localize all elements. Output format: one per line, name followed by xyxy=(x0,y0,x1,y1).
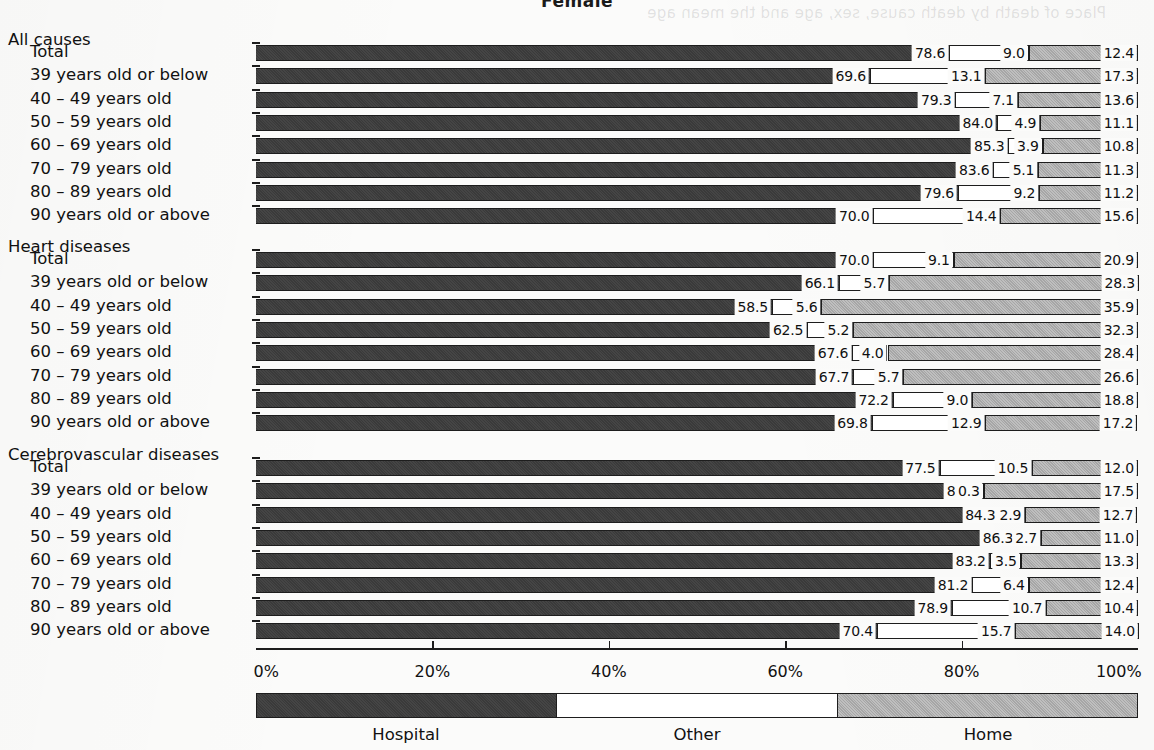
bar-segment-home[interactable] xyxy=(821,299,1138,315)
bar-segment-hospital[interactable] xyxy=(256,460,940,476)
bar-value-home: 13.3 xyxy=(1101,553,1137,569)
bar-value-other: 4.9 xyxy=(1011,115,1039,131)
table-row[interactable]: 84.32.912.7 xyxy=(256,507,1138,523)
table-row[interactable]: 78.910.710.4 xyxy=(256,600,1138,616)
table-row[interactable]: 83.23.513.3 xyxy=(256,553,1138,569)
table-row[interactable]: 69.812.917.2 xyxy=(256,415,1138,431)
category-label: 70 – 79 years old xyxy=(30,576,172,593)
bar-segment-hospital[interactable] xyxy=(256,392,893,408)
legend-swatch-other xyxy=(556,694,838,717)
bar-segment-hospital[interactable] xyxy=(256,577,972,593)
bar-segment-hospital[interactable] xyxy=(256,345,852,361)
table-row[interactable]: 70.415.714.0 xyxy=(256,623,1138,639)
bar-value-other: 12.9 xyxy=(948,415,984,431)
bar-value-home: 13.6 xyxy=(1101,92,1137,108)
bar-segment-hospital[interactable] xyxy=(256,322,807,338)
table-row[interactable]: 72.29.018.8 xyxy=(256,392,1138,408)
table-row[interactable]: 85.33.910.8 xyxy=(256,138,1138,154)
bar-segment-hospital[interactable] xyxy=(256,299,772,315)
bar-segment-hospital[interactable] xyxy=(256,208,873,224)
bar-segment-home[interactable] xyxy=(853,322,1138,338)
bar-value-hospital: 67.6 xyxy=(815,345,851,361)
bar-segment-hospital[interactable] xyxy=(256,185,958,201)
table-row[interactable]: 84.04.911.1 xyxy=(256,115,1138,131)
bar-segment-hospital[interactable] xyxy=(256,45,949,61)
bar-segment-hospital[interactable] xyxy=(256,507,1000,523)
bar-segment-hospital[interactable] xyxy=(256,115,997,131)
table-row[interactable]: 78.69.012.4 xyxy=(256,45,1138,61)
table-row[interactable]: 66.15.728.3 xyxy=(256,275,1138,291)
row-axis-tick xyxy=(252,366,260,368)
row-axis-tick xyxy=(252,159,260,161)
bar-value-home: 17.5 xyxy=(1101,483,1137,499)
group-header-2: Heart diseases xyxy=(8,239,130,256)
table-row[interactable]: 86.32.711.0 xyxy=(256,530,1138,546)
bar-value-home: 12.4 xyxy=(1101,577,1137,593)
bar-value-home: 12.0 xyxy=(1101,460,1137,476)
table-row[interactable]: 70.09.120.9 xyxy=(256,252,1138,268)
category-label: 39 years old or below xyxy=(30,67,208,84)
category-label: 80 – 89 years old xyxy=(30,184,172,201)
table-row[interactable]: 83.65.111.3 xyxy=(256,162,1138,178)
category-label: 39 years old or below xyxy=(30,274,208,291)
bar-segment-hospital[interactable] xyxy=(256,415,872,431)
bar-value-home: 14.0 xyxy=(1102,623,1138,639)
bar-value-home: 28.3 xyxy=(1102,275,1138,291)
bar-value-other: 2.9 xyxy=(996,507,1024,523)
table-row[interactable]: 79.37.113.6 xyxy=(256,92,1138,108)
bar-segment-hospital[interactable] xyxy=(256,68,870,84)
bar-value-hospital: 85.3 xyxy=(971,138,1007,154)
bar-value-home: 10.4 xyxy=(1101,600,1137,616)
x-axis-tick xyxy=(609,641,611,648)
bar-value-home: 10.8 xyxy=(1101,138,1137,154)
bar-segment-hospital[interactable] xyxy=(256,252,873,268)
bar-value-hospital: 69.6 xyxy=(832,68,868,84)
bar-value-other: 5.6 xyxy=(793,299,821,315)
table-row[interactable]: 69.613.117.3 xyxy=(256,68,1138,84)
bar-value-other: 2.7 xyxy=(1012,530,1040,546)
bar-value-hospital: 70.0 xyxy=(836,252,872,268)
category-label: 50 – 59 years old xyxy=(30,529,172,546)
table-row[interactable]: 82.20.317.5 xyxy=(256,483,1138,499)
bar-segment-hospital[interactable] xyxy=(256,623,877,639)
bar-value-other: 3.5 xyxy=(992,553,1020,569)
bar-value-hospital: 58.5 xyxy=(735,299,771,315)
table-row[interactable]: 62.55.232.3 xyxy=(256,322,1138,338)
bar-value-hospital: 83.6 xyxy=(956,162,992,178)
table-row[interactable]: 67.64.028.4 xyxy=(256,345,1138,361)
bar-value-hospital: 69.8 xyxy=(834,415,870,431)
bar-value-home: 12.7 xyxy=(1100,507,1136,523)
bar-segment-hospital[interactable] xyxy=(256,92,955,108)
table-row[interactable]: 81.26.412.4 xyxy=(256,577,1138,593)
table-row[interactable]: 79.69.211.2 xyxy=(256,185,1138,201)
table-row[interactable]: 67.75.726.6 xyxy=(256,369,1138,385)
row-axis-tick xyxy=(252,65,260,67)
bar-segment-hospital[interactable] xyxy=(256,553,990,569)
bar-value-other: 5.1 xyxy=(1010,162,1038,178)
bar-value-hospital: 70.0 xyxy=(836,208,872,224)
row-axis-tick xyxy=(252,597,260,599)
row-axis-tick xyxy=(252,342,260,344)
bar-value-other: 13.1 xyxy=(948,68,984,84)
bar-segment-hospital[interactable] xyxy=(256,369,853,385)
category-label: Total xyxy=(30,251,69,268)
bar-value-other: 15.7 xyxy=(978,623,1014,639)
bar-segment-hospital[interactable] xyxy=(256,138,1008,154)
bar-segment-hospital[interactable] xyxy=(256,530,1017,546)
bar-value-hospital: 79.3 xyxy=(918,92,954,108)
bar-value-hospital: 83.2 xyxy=(952,553,988,569)
table-row[interactable]: 70.014.415.6 xyxy=(256,208,1138,224)
x-axis-tick-label: 40% xyxy=(591,662,627,681)
category-label: 90 years old or above xyxy=(30,622,210,639)
bar-value-home: 11.2 xyxy=(1101,185,1137,201)
bar-segment-hospital[interactable] xyxy=(256,275,839,291)
table-row[interactable]: 58.55.635.9 xyxy=(256,299,1138,315)
bar-value-other: 10.7 xyxy=(1009,600,1045,616)
row-axis-tick xyxy=(252,272,260,274)
row-axis-tick xyxy=(252,319,260,321)
category-label: 50 – 59 years old xyxy=(30,321,172,338)
bar-segment-hospital[interactable] xyxy=(256,600,952,616)
bar-segment-hospital[interactable] xyxy=(256,162,993,178)
table-row[interactable]: 77.510.512.0 xyxy=(256,460,1138,476)
bar-segment-hospital[interactable] xyxy=(256,483,981,499)
